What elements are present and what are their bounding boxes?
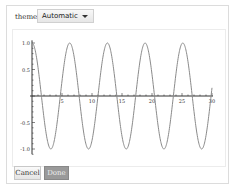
cosine-plot: 510152025301.00.5-0.5-1.0 xyxy=(0,0,233,187)
svg-text:-0.5: -0.5 xyxy=(20,120,30,126)
plot-axes: 510152025301.00.5-0.5-1.0 xyxy=(20,40,215,154)
svg-text:1.0: 1.0 xyxy=(22,40,30,46)
svg-text:0.5: 0.5 xyxy=(22,67,30,73)
svg-text:25: 25 xyxy=(179,98,185,104)
cancel-button[interactable]: Cancel xyxy=(14,166,41,180)
svg-text:15: 15 xyxy=(119,98,125,104)
done-button[interactable]: Done xyxy=(44,166,69,180)
svg-text:20: 20 xyxy=(149,98,155,104)
svg-text:5: 5 xyxy=(60,98,63,104)
svg-text:10: 10 xyxy=(89,98,95,104)
svg-text:-1.0: -1.0 xyxy=(20,146,30,152)
